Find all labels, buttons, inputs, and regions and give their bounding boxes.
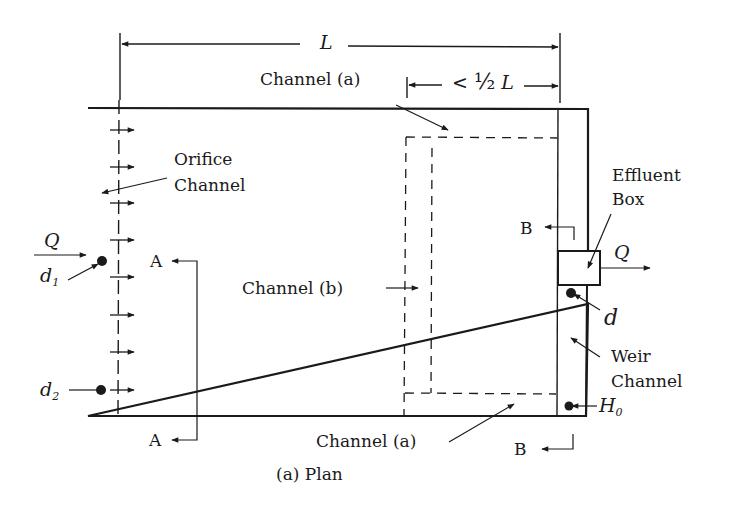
channel-a-top-dashed (406, 137, 557, 138)
section-a-bottom-label: A (149, 431, 161, 450)
d-label: d (604, 308, 618, 327)
orifice-label-line2: Channel (174, 176, 246, 195)
section-b-top-marker (545, 227, 574, 240)
orifice-label-line1: Orifice (174, 150, 232, 169)
channel-a-top-label: Channel (a) (260, 70, 360, 89)
figure-caption: (a) Plan (276, 465, 343, 484)
d1-leader (68, 264, 98, 280)
d2-label: d2 (40, 380, 59, 406)
section-a-bottom-marker (172, 438, 197, 440)
effluent-label-line1: Effluent (612, 166, 681, 185)
channel-b-inner-dashed (431, 148, 432, 393)
h0-point (565, 402, 574, 411)
effluent-label-line2: Box (612, 190, 644, 209)
section-b-bottom-label: B (514, 440, 527, 459)
orifice-flow-arrows (110, 130, 134, 390)
section-b-top-label: B (520, 219, 533, 238)
section-a-top-label: A (150, 252, 162, 271)
channel-a-bottom-leader (449, 404, 514, 442)
orifice-channel-wall (118, 100, 119, 416)
channel-a-bottom-label: Channel (a) (316, 432, 416, 451)
channel-b-outer-dashed (404, 137, 406, 416)
dim-L-right-arrow (348, 46, 558, 47)
channel-a-bottom-dashed (405, 393, 556, 394)
channel-b-label: Channel (b) (242, 279, 343, 298)
orifice-leader (102, 178, 167, 193)
dim-half-label: < ½ L (452, 72, 514, 92)
tank-outline (88, 108, 588, 416)
d1-label: d1 (40, 266, 59, 292)
section-b-bottom-marker (542, 434, 573, 449)
outflow-label: Q (614, 243, 630, 262)
d2-point (96, 385, 106, 395)
d1-point (97, 256, 107, 266)
h0-label: H0 (599, 396, 623, 422)
section-a-top-marker (172, 261, 197, 438)
dim-L-label: L (320, 33, 333, 52)
d-point (566, 288, 576, 298)
inflow-label: Q (44, 231, 60, 250)
weir-label-line1: Weir (611, 347, 651, 366)
weir-label-line2: Channel (611, 372, 683, 391)
